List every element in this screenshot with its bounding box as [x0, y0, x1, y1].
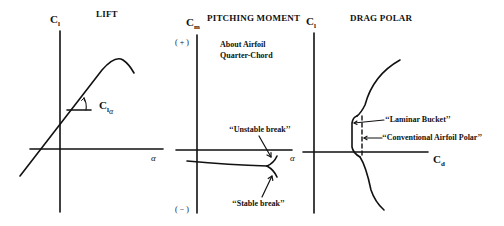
- pitching-note-line2: Quarter-Chord: [220, 52, 273, 60]
- stable-arrow: [262, 176, 272, 197]
- pitching-moment-curve: [187, 161, 267, 166]
- airfoil-characteristics-diagram: LIFT Cl α Clα PITCHING MOMENT Cm ( + ) (…: [0, 0, 504, 226]
- lift-x-axis-label: α: [151, 154, 156, 163]
- laminar-arrow: [354, 120, 384, 123]
- pitching-x-axis-label: α: [290, 154, 295, 163]
- pitching-note-line1: About Airfoil: [220, 41, 266, 49]
- conventional-polar-label: ‘‘Conventional Airfoil Polar’’: [382, 134, 482, 142]
- lift-curve: [20, 59, 134, 176]
- stable-break-curve: [267, 166, 277, 177]
- drag-title: DRAG POLAR: [350, 14, 412, 23]
- unstable-arrow: [259, 136, 271, 157]
- unstable-break-curve: [267, 156, 277, 166]
- pitching-positive-label: ( + ): [175, 39, 189, 47]
- laminar-bucket-label: ‘‘Laminar Bucket’’: [385, 116, 451, 124]
- drag-polar-lower: [360, 157, 384, 210]
- lift-slope-label: Clα: [99, 100, 113, 111]
- drag-y-axis-label: Cl: [306, 16, 316, 27]
- unstable-break-label: ‘‘Unstable break’’: [229, 126, 291, 134]
- lift-y-axis-label: Cl: [50, 14, 60, 25]
- diagram-graphics: [0, 0, 504, 226]
- lift-title: LIFT: [96, 10, 118, 19]
- drag-x-axis-label: Cd: [433, 154, 445, 165]
- pitching-y-axis-label: Cm: [186, 17, 200, 28]
- pitching-title: PITCHING MOMENT: [207, 14, 300, 23]
- stable-break-label: ‘‘Stable break’’: [232, 200, 285, 208]
- drag-polar-upper: [357, 60, 400, 116]
- pitching-negative-label: ( − ): [175, 206, 189, 214]
